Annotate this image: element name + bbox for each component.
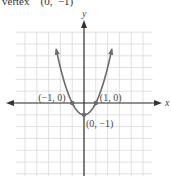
point-marker — [94, 101, 98, 105]
axes: xy — [6, 8, 170, 176]
point-label: (1, 0) — [100, 92, 122, 104]
labeled-points: (−1, 0)(1, 0)(0, −1) — [38, 92, 121, 130]
point-marker — [82, 113, 86, 117]
point-label: (0, −1) — [86, 118, 113, 130]
x-axis-right-arrow-icon — [154, 100, 162, 106]
x-axis-left-arrow-icon — [6, 100, 14, 106]
parabola-graph: xy (−1, 0)(1, 0)(0, −1) — [0, 0, 171, 176]
y-axis-label: y — [81, 8, 87, 19]
y-axis-arrow-icon — [81, 20, 87, 28]
point-marker — [70, 101, 74, 105]
curve-arrow-icon — [108, 48, 113, 55]
curve-arrow-icon — [55, 48, 60, 55]
x-axis-label: x — [164, 97, 170, 108]
point-label: (−1, 0) — [38, 92, 65, 104]
